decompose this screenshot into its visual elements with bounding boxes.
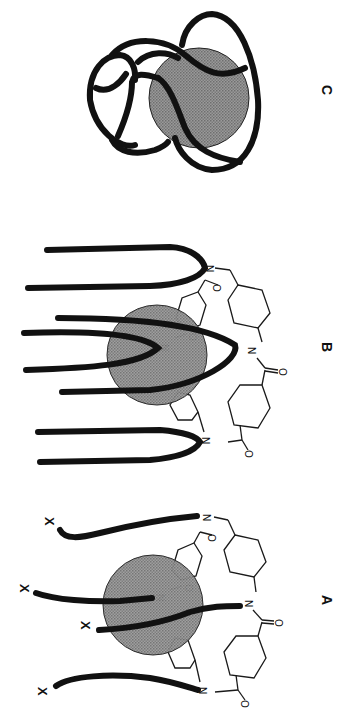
benzene-ring bbox=[224, 636, 266, 678]
end-group-x: X bbox=[35, 687, 50, 696]
panel-b: N N O O N N O bbox=[24, 247, 335, 462]
sphere bbox=[103, 555, 203, 655]
chain-loop bbox=[96, 74, 126, 90]
end-group-x: X bbox=[42, 517, 57, 526]
end-group-x: X bbox=[17, 584, 32, 593]
atom-oxygen: O bbox=[273, 619, 284, 627]
atom-oxygen: O bbox=[239, 700, 250, 708]
benzene-ring bbox=[228, 385, 270, 428]
atom-oxygen: O bbox=[277, 368, 288, 376]
end-group-x: X bbox=[78, 621, 93, 630]
panel-a: N N O O N N O O bbox=[17, 514, 335, 708]
atom-oxygen: O bbox=[243, 450, 254, 458]
panel-label-c: C bbox=[319, 85, 335, 95]
chain-strand bbox=[56, 676, 198, 690]
atom-nitrogen: N bbox=[201, 514, 212, 521]
chain-loop bbox=[38, 430, 200, 462]
atom-nitrogen: N bbox=[246, 347, 257, 354]
atom-nitrogen: N bbox=[243, 600, 254, 607]
benzene-ring bbox=[228, 285, 270, 328]
atom-oxygen: O bbox=[206, 534, 217, 542]
chain-loop bbox=[28, 247, 205, 288]
panel-label-a: A bbox=[319, 595, 335, 605]
panel-label-b: B bbox=[319, 342, 335, 352]
figure-canvas: C N N O O N bbox=[0, 0, 343, 708]
benzene-ring bbox=[224, 535, 266, 577]
atom-oxygen: O bbox=[211, 284, 222, 292]
chain-strand bbox=[60, 516, 197, 537]
panel-c: C bbox=[90, 14, 335, 170]
